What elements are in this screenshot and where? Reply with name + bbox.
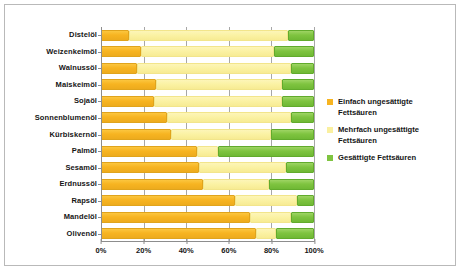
x-axis-tick <box>314 239 315 244</box>
bar-row <box>101 212 314 223</box>
x-axis-label: 20% <box>136 246 151 255</box>
gridline-100 <box>314 27 315 242</box>
bar-segment <box>167 112 291 123</box>
bar-row <box>101 46 314 57</box>
chart-frame: DistelölWeizenkeimölWalnussölMaiskeimölS… <box>4 4 456 266</box>
y-axis-label: Kürbiskernöl <box>5 130 97 139</box>
legend-swatch-icon <box>327 127 333 133</box>
bar-segment <box>282 79 314 90</box>
y-axis-label: Distelöl <box>5 30 97 39</box>
bar-row <box>101 195 314 206</box>
bar-segment <box>291 212 314 223</box>
bar-segment <box>203 179 269 190</box>
bar-segment <box>218 146 314 157</box>
x-axis-tick <box>271 239 272 244</box>
bar-row <box>101 112 314 123</box>
legend-label: Gesättigte Fettsäuren <box>338 153 416 162</box>
bar-segment <box>101 162 199 173</box>
bar-segment <box>199 162 286 173</box>
bar-segment <box>129 30 289 41</box>
bar-segment <box>137 63 290 74</box>
bar-segment <box>101 129 171 140</box>
legend-swatch-icon <box>327 99 333 105</box>
bar-row <box>101 162 314 173</box>
bar-segment <box>282 96 314 107</box>
legend-item[interactable]: Einfach ungesättigte Fettsäuren <box>327 97 453 118</box>
bar-segment <box>101 212 250 223</box>
x-axis-tick-labels: 0%20%40%60%80%100% <box>101 246 321 260</box>
legend-item[interactable]: Gesättigte Fettsäuren <box>327 153 453 164</box>
bar-row <box>101 228 314 239</box>
legend-label: Mehrfach ungesättigte Fettsäuren <box>338 125 419 145</box>
y-axis-label: Sonnenblumenöl <box>5 113 97 122</box>
bar-segment <box>101 79 156 90</box>
y-axis-label: Sojaöl <box>5 96 97 105</box>
bar-segment <box>101 30 129 41</box>
bar-segment <box>250 212 290 223</box>
x-axis-line <box>101 241 314 242</box>
bar-row <box>101 63 314 74</box>
x-axis-label: 60% <box>221 246 236 255</box>
y-axis-label: Mandelöl <box>5 212 97 221</box>
bar-segment <box>101 112 167 123</box>
x-axis-tick <box>229 239 230 244</box>
y-axis-category-labels: DistelölWeizenkeimölWalnussölMaiskeimölS… <box>5 27 97 242</box>
legend-swatch-icon <box>327 155 333 161</box>
x-axis-label: 80% <box>264 246 279 255</box>
legend-item[interactable]: Mehrfach ungesättigte Fettsäuren <box>327 125 453 146</box>
y-axis-label: Weizenkeimöl <box>5 47 97 56</box>
bar-segment <box>101 228 256 239</box>
bar-segment <box>101 96 154 107</box>
bar-segment <box>274 46 314 57</box>
bar-segment <box>197 146 218 157</box>
bar-segment <box>101 146 197 157</box>
bar-segment <box>276 228 314 239</box>
bar-segment <box>154 96 282 107</box>
bar-segment <box>141 46 273 57</box>
bar-segment <box>235 195 297 206</box>
y-axis-label: Sesamöl <box>5 163 97 172</box>
y-axis-label: Olivenöl <box>5 229 97 238</box>
y-axis-line <box>101 27 102 242</box>
y-axis-label: Rapsöl <box>5 196 97 205</box>
y-axis-label: Walnussöl <box>5 63 97 72</box>
x-axis-label: 100% <box>304 246 323 255</box>
bar-segment <box>288 30 314 41</box>
bar-segment <box>101 46 141 57</box>
bar-segment <box>269 179 314 190</box>
bar-row <box>101 129 314 140</box>
bar-segment <box>101 63 137 74</box>
bar-segment <box>297 195 314 206</box>
chart-legend: Einfach ungesättigte FettsäurenMehrfach … <box>327 97 453 171</box>
bar-segment <box>256 228 275 239</box>
y-axis-label: Erdnussöl <box>5 179 97 188</box>
x-axis-tick <box>101 239 102 244</box>
x-axis-label: 0% <box>96 246 107 255</box>
x-axis-tick <box>186 239 187 244</box>
bar-row <box>101 30 314 41</box>
bar-segment <box>101 195 235 206</box>
bar-row <box>101 179 314 190</box>
bar-segment <box>291 112 314 123</box>
x-axis-label: 40% <box>179 246 194 255</box>
y-axis-label: Palmöl <box>5 146 97 155</box>
bar-segment <box>171 129 271 140</box>
plot-area <box>101 27 314 242</box>
legend-label: Einfach ungesättigte Fettsäuren <box>338 97 413 117</box>
bar-segment <box>101 179 203 190</box>
bar-segment <box>286 162 314 173</box>
bar-row <box>101 146 314 157</box>
bar-segment <box>271 129 314 140</box>
bar-segment <box>156 79 282 90</box>
bar-row <box>101 96 314 107</box>
bar-row <box>101 79 314 90</box>
y-axis-label: Maiskeimöl <box>5 80 97 89</box>
bar-segment <box>291 63 314 74</box>
x-axis-tick <box>144 239 145 244</box>
